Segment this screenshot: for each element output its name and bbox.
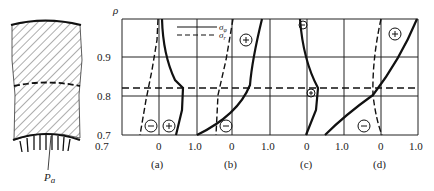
caption-a: (a) [151, 158, 164, 171]
panel-d-curves [325, 19, 417, 135]
x-tick-b-1.0: 1.0 [261, 140, 275, 152]
panel-b-curves [197, 19, 262, 135]
pressure-arrows [20, 135, 70, 152]
stress-distribution-diagram: Pa ρ 0.9 0.8 0.7 σφ σr [0, 0, 434, 191]
x-tick-c-0: 0 [304, 140, 310, 152]
x-tick-b-1.0-left: 1.0 [188, 140, 202, 152]
x-tick-d-0: 0 [378, 140, 384, 152]
x-tick-origin-0.7: 0.7 [95, 140, 109, 152]
panel-a-curves [140, 19, 183, 135]
legend: σφ σr [177, 22, 227, 41]
sign-markers [145, 21, 401, 132]
x-tick-a-0: 0 [156, 140, 162, 152]
x-tick-b-0: 0 [229, 140, 235, 152]
y-tick-0.8: 0.8 [97, 90, 111, 102]
cylinder-cross-section: Pa [11, 21, 82, 186]
y-tick-0.9: 0.9 [97, 51, 111, 63]
caption-b: (b) [224, 158, 237, 171]
caption-c: (c) [300, 158, 313, 171]
caption-d: (d) [373, 158, 386, 171]
pressure-leader-line [48, 136, 51, 170]
panel-c-curves [300, 19, 318, 135]
x-tick-d-1.0: 1.0 [409, 140, 423, 152]
pressure-label: Pa [43, 171, 56, 185]
x-tick-d-1.0-left: 1.0 [335, 140, 349, 152]
rho-axis-label: ρ [112, 4, 118, 16]
